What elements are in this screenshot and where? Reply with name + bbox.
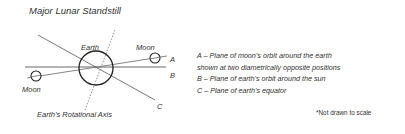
- earth-label: Earth: [81, 43, 99, 52]
- line-c-label: C: [157, 102, 163, 111]
- axis-label: Earth’s Rotational Axis: [37, 110, 112, 119]
- legend-line-b: B – Plane of earth’s orbit around the su…: [197, 73, 340, 85]
- line-a-label: A: [169, 55, 175, 64]
- legend-line-a-cont: shown at two diametrically opposite posi…: [197, 62, 340, 74]
- earth-circle: [79, 51, 113, 85]
- scale-note: *Not drawn to scale: [316, 109, 371, 116]
- moon-left-label: Moon: [22, 85, 41, 94]
- moon-right-label: Moon: [136, 43, 155, 52]
- legend-line-a: A – Plane of moon’s orbit around the ear…: [197, 50, 340, 62]
- line-b-label: B: [170, 71, 175, 80]
- legend-line-c: C – Plane of earth’s equator: [197, 85, 340, 97]
- legend: A – Plane of moon’s orbit around the ear…: [197, 50, 340, 96]
- rotational-axis: [85, 30, 115, 110]
